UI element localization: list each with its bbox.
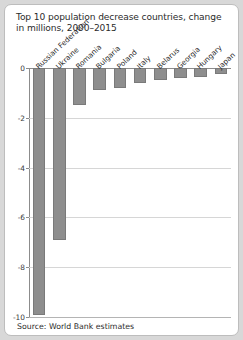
chart-title: Top 10 population decrease countries, ch… bbox=[16, 12, 232, 35]
bar bbox=[73, 68, 86, 105]
y-tick-mark bbox=[26, 168, 29, 169]
bar bbox=[93, 68, 106, 90]
y-tick-label: -8 bbox=[7, 263, 25, 272]
y-tick-mark bbox=[26, 68, 29, 69]
gridline bbox=[29, 267, 231, 268]
chart-card: Top 10 population decrease countries, ch… bbox=[4, 4, 239, 336]
y-tick-label: 0 bbox=[7, 64, 25, 73]
y-tick-label: -10 bbox=[7, 313, 25, 322]
y-tick-mark bbox=[26, 267, 29, 268]
y-tick-label: -6 bbox=[7, 213, 25, 222]
gridline bbox=[29, 317, 231, 318]
y-tick-mark bbox=[26, 217, 29, 218]
bar bbox=[53, 68, 66, 240]
y-tick-mark bbox=[26, 317, 29, 318]
plot-area: 0-2-4-6-8-10 bbox=[29, 68, 231, 317]
y-tick-label: -4 bbox=[7, 164, 25, 173]
y-tick-label: -2 bbox=[7, 114, 25, 123]
y-tick-mark bbox=[26, 118, 29, 119]
source-note: Source: World Bank estimates bbox=[17, 322, 134, 331]
bar bbox=[114, 68, 127, 88]
bar bbox=[33, 68, 46, 315]
